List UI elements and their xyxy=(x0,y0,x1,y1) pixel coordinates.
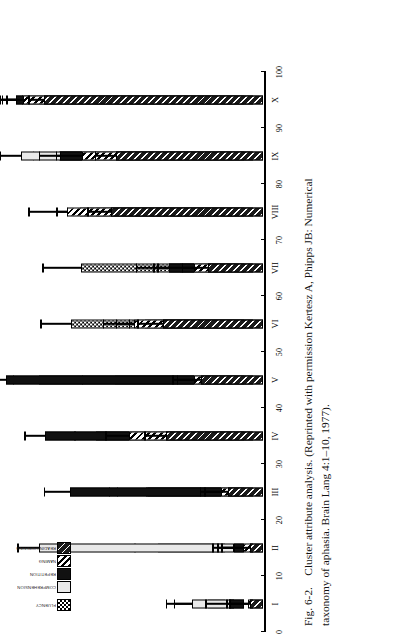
error-bar-cap xyxy=(2,96,4,105)
axis-tick-label: 30 xyxy=(275,460,284,468)
group-label-iv: IV xyxy=(270,432,280,441)
bar-group-viii: VIII xyxy=(10,184,264,240)
bar-iii-reading-writing xyxy=(228,488,263,497)
axis-tick-label: 90 xyxy=(275,124,284,132)
error-bar-cap xyxy=(56,152,58,161)
bar-group-vi: VI xyxy=(10,296,264,352)
error-bar-cap xyxy=(172,376,174,385)
group-label-ii: II xyxy=(270,545,280,551)
figure-rotator: 0102030405060708090100 IIIIIIIVVVIVIIVII… xyxy=(0,0,400,640)
error-bar-cap xyxy=(87,208,89,217)
chart-plot-area: 0102030405060708090100 IIIIIIIVVVIVIIVII… xyxy=(10,72,266,632)
caption-line-1: Cluster attribute analysis. (Reprinted w… xyxy=(302,178,314,575)
legend-item-label: FLUENCY xyxy=(16,603,56,608)
error-bar-cap xyxy=(204,488,206,497)
error-bar-cap xyxy=(40,320,42,329)
bar-slot xyxy=(255,128,263,184)
group-label-x: X xyxy=(270,97,280,103)
error-bar xyxy=(45,491,70,493)
axis-tick-label: 70 xyxy=(275,236,284,244)
legend-group-a: FLUENCY xyxy=(16,599,71,612)
bar-slot xyxy=(255,240,263,296)
group-label-viii: VIII xyxy=(270,205,280,220)
error-bar-cap xyxy=(0,152,1,161)
bar-slot xyxy=(255,408,263,464)
error-bar xyxy=(30,211,67,213)
error-bar-cap xyxy=(157,264,159,273)
error-bar xyxy=(223,547,250,549)
error-bar-cap xyxy=(212,544,214,553)
error-bar xyxy=(44,267,81,269)
error-bar xyxy=(42,323,72,325)
error-bar-cap xyxy=(136,264,138,273)
bar-ii-reading-writing xyxy=(250,544,262,553)
error-bar xyxy=(96,155,116,157)
error-bar-cap xyxy=(200,488,202,497)
error-bar-cap xyxy=(226,600,228,609)
bar-x-reading-writing xyxy=(44,96,262,105)
legend-item-label: READING/WRITING xyxy=(16,546,56,551)
error-bar xyxy=(26,435,46,437)
error-bar-cap xyxy=(44,488,46,497)
legend-item-label: REPETITION xyxy=(16,572,56,577)
legend-group-b: COMPREHENSIONREPETITIONNAMINGREADING/WRI… xyxy=(16,542,71,594)
error-bar-cap xyxy=(221,544,223,553)
error-bar xyxy=(228,603,250,605)
error-bar-cap xyxy=(217,544,219,553)
error-bar xyxy=(139,323,164,325)
bar-group-vii: VII xyxy=(10,240,264,296)
bar-iv-reading-writing xyxy=(166,432,263,441)
axis-tick-label: 100 xyxy=(275,66,284,79)
error-bar-cap xyxy=(137,320,139,329)
legend-item-repetition: REPETITION xyxy=(16,568,71,581)
bar-group-x: X xyxy=(10,72,264,128)
error-bar-cap xyxy=(144,432,146,441)
bar-vi-reading-writing xyxy=(163,320,262,329)
error-bar xyxy=(183,267,208,269)
bar-ix-reading-writing xyxy=(116,152,262,161)
group-label-iii: III xyxy=(270,488,280,497)
error-bar xyxy=(107,435,129,437)
group-label-ix: IX xyxy=(270,152,280,161)
error-bar-cap xyxy=(166,600,168,609)
legend-swatch xyxy=(57,569,71,581)
legend-swatch xyxy=(57,582,71,594)
error-bar-cap xyxy=(103,320,105,329)
error-bar-cap xyxy=(28,208,30,217)
error-bar-cap xyxy=(105,432,107,441)
error-bar xyxy=(206,491,228,493)
error-bar-cap xyxy=(95,152,97,161)
error-bar-cap xyxy=(6,96,8,105)
axis-tick-label: 10 xyxy=(275,572,284,580)
axis-tick-label: 50 xyxy=(275,348,284,356)
error-bar xyxy=(0,379,6,381)
bar-i-reading-writing xyxy=(250,600,262,609)
error-bar xyxy=(89,211,111,213)
axis-tick-label: 0 xyxy=(275,630,284,634)
error-bar-cap xyxy=(182,264,184,273)
error-bar xyxy=(146,435,166,437)
legend-swatch xyxy=(57,600,71,612)
error-bar xyxy=(57,155,82,157)
axis-tick-label: 20 xyxy=(275,516,284,524)
legend-item-label: COMPREHENSION xyxy=(16,585,56,590)
error-bar-cap xyxy=(205,600,207,609)
group-label-i: I xyxy=(270,603,280,606)
caption-line-2: taxonomy of aphasia. Brain Lang 4:1–10, … xyxy=(317,78,334,626)
bar-group-ix: IX xyxy=(10,128,264,184)
chart-legend: FLUENCYCOMPREHENSIONREPETITIONNAMINGREAD… xyxy=(16,542,71,612)
bar-slot xyxy=(255,576,263,632)
bar-slot xyxy=(255,296,263,352)
error-bar-cap xyxy=(177,376,179,385)
bar-slot xyxy=(255,520,263,576)
bar-vii-reading-writing xyxy=(208,264,263,273)
error-bar xyxy=(30,99,45,101)
legend-item-comprehension: COMPREHENSION xyxy=(16,581,71,594)
axis-tick-label: 60 xyxy=(275,292,284,300)
error-bar-cap xyxy=(42,264,44,273)
legend-item-naming: NAMING xyxy=(16,555,71,568)
axis-tick-label: 40 xyxy=(275,404,284,412)
bar-v-reading-writing xyxy=(201,376,263,385)
error-bar xyxy=(1,155,21,157)
error-bar xyxy=(178,379,200,381)
